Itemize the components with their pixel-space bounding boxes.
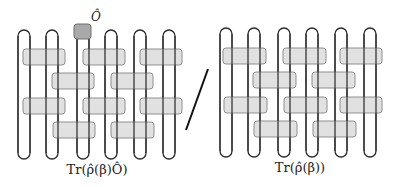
trace-loop-1 (220, 28, 232, 157)
tensor-network-ratio-diagram: Ô Tr(ρ̂(β)Ô) Tr(ρ̂(β)) (0, 0, 398, 187)
denominator-caption: Tr(ρ̂(β)) (275, 160, 325, 175)
trace-loop-3 (278, 28, 290, 157)
numerator-caption: Tr(ρ̂(β)Ô) (67, 161, 128, 177)
numerator-network: Ô Tr(ρ̂(β)Ô) (18, 8, 182, 177)
operator-box (74, 24, 91, 39)
trace-loop-6 (364, 28, 376, 157)
denominator-network: Tr(ρ̂(β)) (220, 28, 382, 175)
trace-loop-2 (248, 28, 260, 157)
trace-loop-4 (306, 28, 318, 157)
trace-loop-5 (335, 28, 347, 157)
gate (23, 49, 65, 65)
gate (23, 98, 65, 114)
operator-label: Ô (91, 8, 101, 24)
division-slash (186, 69, 208, 130)
